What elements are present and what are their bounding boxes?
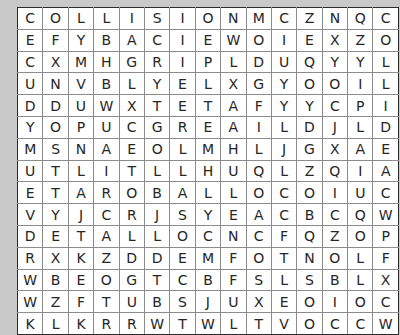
grid-cell[interactable]: C xyxy=(94,204,119,226)
grid-cell[interactable]: B xyxy=(144,291,169,313)
grid-cell[interactable]: E xyxy=(297,29,322,51)
grid-cell[interactable]: O xyxy=(297,182,322,204)
grid-cell[interactable]: S xyxy=(170,291,195,313)
grid-cell[interactable]: E xyxy=(221,204,246,226)
grid-cell[interactable]: O xyxy=(195,8,220,30)
grid-cell[interactable]: A xyxy=(94,138,119,160)
grid-cell[interactable]: T xyxy=(43,182,68,204)
grid-cell[interactable]: O xyxy=(246,29,271,51)
grid-cell[interactable]: E xyxy=(271,291,296,313)
grid-cell[interactable]: X xyxy=(322,29,347,51)
grid-cell[interactable]: F xyxy=(271,225,296,247)
grid-cell[interactable]: E xyxy=(373,138,398,160)
grid-cell[interactable]: T xyxy=(170,313,195,335)
grid-cell[interactable]: O xyxy=(297,313,322,335)
grid-cell[interactable]: U xyxy=(18,73,43,95)
grid-cell[interactable]: I xyxy=(119,8,144,30)
grid-cell[interactable]: C xyxy=(373,182,398,204)
grid-cell[interactable]: L xyxy=(348,269,373,291)
grid-cell[interactable]: W xyxy=(94,95,119,117)
grid-cell[interactable]: O xyxy=(94,269,119,291)
grid-cell[interactable]: M xyxy=(195,138,220,160)
grid-cell[interactable]: Y xyxy=(348,51,373,73)
grid-cell[interactable]: K xyxy=(68,313,93,335)
grid-cell[interactable]: F xyxy=(373,247,398,269)
grid-cell[interactable]: W xyxy=(221,29,246,51)
grid-cell[interactable]: R xyxy=(94,313,119,335)
grid-cell[interactable]: Q xyxy=(297,225,322,247)
grid-cell[interactable]: O xyxy=(119,182,144,204)
grid-cell[interactable]: O xyxy=(297,291,322,313)
grid-cell[interactable]: O xyxy=(43,116,68,138)
grid-cell[interactable]: M xyxy=(68,51,93,73)
grid-cell[interactable]: X xyxy=(43,51,68,73)
grid-cell[interactable]: L xyxy=(119,225,144,247)
grid-cell[interactable]: B xyxy=(322,269,347,291)
grid-cell[interactable]: T xyxy=(271,247,296,269)
grid-cell[interactable]: A xyxy=(221,95,246,117)
grid-cell[interactable]: I xyxy=(271,29,296,51)
grid-cell[interactable]: W xyxy=(18,269,43,291)
grid-cell[interactable]: R xyxy=(170,116,195,138)
grid-cell[interactable]: Q xyxy=(348,204,373,226)
grid-cell[interactable]: C xyxy=(348,313,373,335)
grid-cell[interactable]: I xyxy=(170,29,195,51)
grid-cell[interactable]: R xyxy=(94,182,119,204)
grid-cell[interactable]: J xyxy=(68,204,93,226)
grid-cell[interactable]: R xyxy=(119,313,144,335)
grid-cell[interactable]: O xyxy=(297,73,322,95)
grid-cell[interactable]: L xyxy=(373,51,398,73)
grid-cell[interactable]: D xyxy=(144,247,169,269)
grid-cell[interactable]: I xyxy=(170,51,195,73)
grid-cell[interactable]: E xyxy=(18,29,43,51)
grid-cell[interactable]: I xyxy=(348,73,373,95)
grid-cell[interactable]: N xyxy=(297,247,322,269)
grid-cell[interactable]: W xyxy=(144,313,169,335)
grid-cell[interactable]: K xyxy=(18,313,43,335)
grid-cell[interactable]: Y xyxy=(271,73,296,95)
grid-cell[interactable]: E xyxy=(43,225,68,247)
grid-cell[interactable]: L xyxy=(43,313,68,335)
grid-cell[interactable]: H xyxy=(221,138,246,160)
grid-cell[interactable]: L xyxy=(271,116,296,138)
grid-cell[interactable]: J xyxy=(322,116,347,138)
grid-cell[interactable]: X xyxy=(246,291,271,313)
grid-cell[interactable]: C xyxy=(18,51,43,73)
grid-cell[interactable]: B xyxy=(144,182,169,204)
grid-cell[interactable]: C xyxy=(322,313,347,335)
grid-cell[interactable]: O xyxy=(43,8,68,30)
grid-cell[interactable]: I xyxy=(348,160,373,182)
grid-cell[interactable]: Z xyxy=(43,291,68,313)
grid-cell[interactable]: C xyxy=(119,116,144,138)
grid-cell[interactable]: C xyxy=(373,291,398,313)
grid-cell[interactable]: L xyxy=(373,73,398,95)
grid-cell[interactable]: Q xyxy=(348,8,373,30)
grid-cell[interactable]: G xyxy=(144,116,169,138)
grid-cell[interactable]: C xyxy=(271,8,296,30)
grid-cell[interactable]: A xyxy=(348,138,373,160)
grid-cell[interactable]: D xyxy=(297,116,322,138)
grid-cell[interactable]: A xyxy=(221,116,246,138)
grid-cell[interactable]: N xyxy=(221,225,246,247)
grid-cell[interactable]: O xyxy=(322,247,347,269)
grid-cell[interactable]: L xyxy=(221,51,246,73)
grid-cell[interactable]: N xyxy=(68,138,93,160)
grid-cell[interactable]: E xyxy=(119,138,144,160)
grid-cell[interactable]: U xyxy=(271,51,296,73)
grid-cell[interactable]: W xyxy=(373,313,398,335)
grid-cell[interactable]: B xyxy=(94,29,119,51)
grid-cell[interactable]: O xyxy=(170,225,195,247)
grid-cell[interactable]: A xyxy=(94,225,119,247)
grid-cell[interactable]: J xyxy=(195,291,220,313)
grid-cell[interactable]: Z xyxy=(322,225,347,247)
grid-cell[interactable]: O xyxy=(348,291,373,313)
grid-cell[interactable]: I xyxy=(322,182,347,204)
grid-cell[interactable]: C xyxy=(271,204,296,226)
grid-cell[interactable]: Y xyxy=(195,204,220,226)
grid-cell[interactable]: A xyxy=(373,160,398,182)
grid-cell[interactable]: T xyxy=(144,95,169,117)
grid-cell[interactable]: A xyxy=(246,204,271,226)
grid-cell[interactable]: B xyxy=(94,73,119,95)
grid-cell[interactable]: B xyxy=(43,269,68,291)
grid-cell[interactable]: U xyxy=(221,160,246,182)
